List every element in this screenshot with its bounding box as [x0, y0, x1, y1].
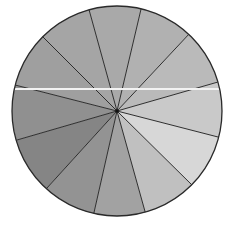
- center-hub: [115, 109, 119, 113]
- segmented-circle: [0, 0, 229, 226]
- diagram-canvas: [0, 0, 229, 226]
